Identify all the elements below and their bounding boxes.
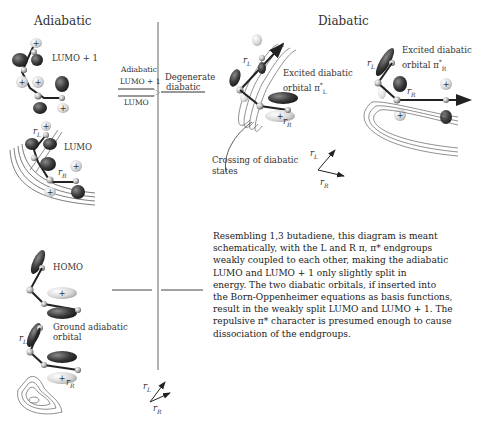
label-lumo-rR: rR — [58, 167, 67, 181]
svg-text:+: + — [59, 374, 66, 383]
label-homo: HOMO — [53, 262, 83, 273]
label-lumo: LUMO — [64, 142, 92, 153]
label-lumo-plus-1: LUMO + 1 — [52, 53, 98, 64]
description-line: dissociation of the endgroups. — [213, 328, 485, 340]
svg-text:+: + — [33, 39, 40, 48]
svg-text:+: + — [59, 289, 66, 298]
label-right2-rR: rR — [407, 86, 416, 100]
label-crossing-line1: Crossing of diabatic — [212, 155, 298, 166]
svg-text:+: + — [73, 162, 80, 171]
label-ground-rL: rL — [19, 333, 27, 347]
excited-L-molecule — [225, 34, 298, 172]
svg-text:+: + — [443, 80, 450, 89]
svg-text:+: + — [43, 122, 50, 131]
label-crossing-line2: states — [212, 166, 238, 177]
description-line: schematically, with the L and R π, π* en… — [213, 242, 485, 254]
axis-left-rR: rR — [153, 403, 162, 417]
svg-text:+: + — [47, 188, 54, 197]
lumo-plus-1-molecule — [12, 38, 69, 114]
description-paragraph: Resembling 1,3 butadiene, this diagram i… — [213, 230, 485, 340]
label-diabatic: diabatic — [166, 82, 201, 93]
label-right-rR: rR — [283, 116, 292, 130]
axis-right-rR: rR — [320, 177, 329, 191]
label-lumo-rL: rL — [33, 126, 41, 140]
label-ground-rR: rR — [66, 377, 75, 391]
axis-left-rL: rL — [143, 381, 151, 395]
axis-right-rL: rL — [310, 148, 318, 162]
label-right2-rL: rL — [367, 58, 375, 72]
label-right-rL: rL — [243, 55, 251, 69]
label-adiabatic-small: Adiabatic — [121, 65, 157, 75]
description-line: weakly coupled to each other, making the… — [213, 254, 485, 266]
heading-diabatic: Diabatic — [318, 14, 369, 28]
left-axes — [150, 382, 170, 402]
svg-text:+: + — [60, 104, 67, 113]
right-axes — [318, 150, 344, 176]
label-level-lumo: LUMO — [124, 98, 149, 108]
description-line: the Born-Oppenheimer equations as basis … — [213, 291, 485, 303]
label-excited-L-line1: Excited diabatic — [283, 68, 353, 79]
label-excited-R-line2: orbital π*R — [402, 56, 446, 74]
description-line: energy. The two diabatic orbitals, if in… — [213, 279, 485, 291]
description-line: result in the weakly split LUMO and LUMO… — [213, 303, 485, 315]
description-line: LUMO and LUMO + 1 only slightly split in — [213, 267, 485, 279]
label-excited-L-line2: orbital π*L — [283, 79, 327, 97]
homo-molecule — [27, 248, 82, 319]
svg-text:+: + — [19, 78, 26, 87]
description-line: Resembling 1,3 butadiene, this diagram i… — [213, 230, 485, 242]
svg-text:+: + — [35, 78, 42, 87]
label-ground-line2: orbital — [53, 332, 82, 343]
label-level-lumo-plus-1: LUMO + 1 — [120, 77, 161, 87]
label-excited-R-line1: Excited diabatic — [402, 45, 472, 56]
description-line: repulsive π* character is presumed enoug… — [213, 315, 485, 327]
svg-text:+: + — [397, 111, 404, 120]
heading-adiabatic: Adiabatic — [34, 14, 92, 28]
